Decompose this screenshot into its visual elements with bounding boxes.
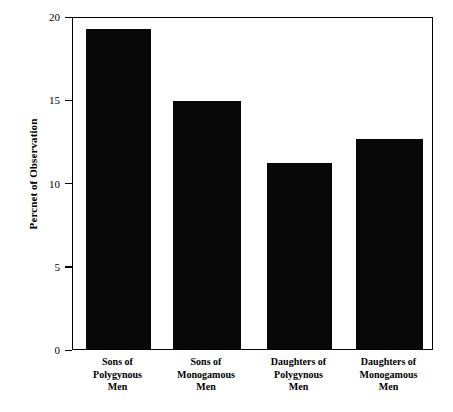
x-axis-category-label: Daughters of Monogamous Men: [334, 356, 444, 394]
y-tick-label: 15: [49, 92, 60, 108]
y-tick-label: 0: [55, 342, 61, 358]
y-tick-mark: [65, 350, 72, 351]
bar: [267, 163, 332, 349]
bar: [173, 101, 241, 349]
y-axis-title: Percnet of Observation: [27, 84, 39, 264]
y-tick-mark: [65, 266, 72, 267]
plot-area: [72, 17, 433, 350]
y-tick-label: 20: [49, 9, 60, 25]
y-tick-mark: [65, 183, 72, 184]
y-tick-mark: [65, 100, 72, 101]
y-tick-label: 5: [55, 259, 61, 275]
bar: [356, 139, 423, 349]
bar: [86, 29, 151, 349]
y-tick-mark: [65, 17, 72, 18]
bar-chart-figure: Percnet of Observation 05101520 Sons of …: [0, 0, 453, 412]
y-tick-label: 10: [49, 176, 60, 192]
